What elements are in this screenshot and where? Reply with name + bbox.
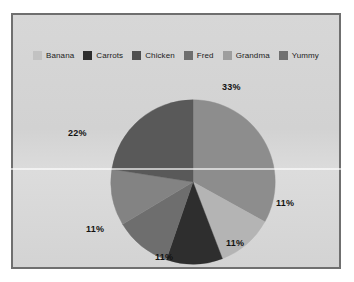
pie-slice-percent-label: 11%: [86, 224, 104, 234]
pie-slice-percent-label: 33%: [222, 82, 241, 92]
pie-slice-percent-label: 11%: [155, 252, 173, 262]
pie-slice-percent-label: 11%: [226, 238, 244, 248]
pie-slice-percent-label: 11%: [276, 198, 294, 208]
pie-slice[interactable]: [112, 100, 193, 182]
pie-slice-percent-label: 22%: [68, 128, 87, 138]
pie-chart: [110, 99, 276, 265]
pie-chart-area: [13, 15, 339, 267]
chart-frame: BananaCarrotsChickenFredGrandmaYummy: [11, 13, 341, 269]
